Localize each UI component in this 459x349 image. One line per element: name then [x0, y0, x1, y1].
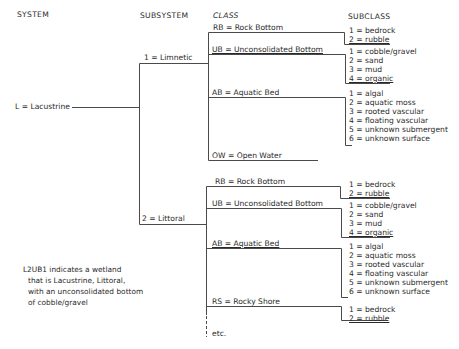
note-line: with an unconsolidated bottom — [23, 286, 143, 297]
more-classes-etc: etc. — [212, 329, 226, 338]
header-class: CLASS — [213, 11, 239, 20]
class-littoral-rs: RS = Rocky Shore — [212, 297, 280, 306]
class-littoral-ub: UB = Unconsolidated Bottom — [212, 199, 323, 208]
subclass-item: 6 = unknown surface — [349, 135, 448, 144]
subclass-item: 4 = organic — [349, 229, 417, 238]
subclass-list-limnetic-ub: 1 = cobble/gravel 2 = sand 3 = mud 4 = o… — [349, 48, 417, 84]
subclass-list-littoral-rb: 1 = bedrock 2 = rubble — [349, 181, 396, 199]
header-system: SYSTEM — [17, 10, 49, 19]
subclass-list-limnetic-rb: 1 = bedrock 2 = rubble — [349, 27, 396, 45]
subclass-item: 2 = rubble — [349, 190, 396, 199]
subclass-item: 6 = unknown surface — [349, 288, 448, 297]
example-note: L2UB1 indicates a wetland that is Lacust… — [23, 264, 143, 308]
subclass-list-limnetic-ab: 1 = algal 2 = aquatic moss 3 = rooted va… — [349, 90, 448, 143]
class-littoral-ab: AB = Aquatic Bed — [212, 239, 279, 248]
class-limnetic-ow: OW = Open Water — [212, 151, 282, 160]
subclass-list-littoral-rs: 1 = bedrock 2 = rubble — [349, 306, 396, 324]
subclass-list-littoral-ab: 1 = algal 2 = aquatic moss 3 = rooted va… — [349, 243, 448, 296]
header-subclass: SUBCLASS — [348, 12, 390, 21]
note-line: that is Lacustrine, Littoral, — [23, 275, 143, 286]
system-lacustrine: L = Lacustrine — [15, 102, 70, 111]
header-subsystem: SUBSYSTEM — [140, 11, 188, 20]
class-limnetic-rb: RB = Rock Bottom — [213, 23, 283, 32]
subclass-item: 4 = organic — [349, 75, 417, 84]
note-line: L2UB1 indicates a wetland — [23, 264, 143, 275]
subsystem-limnetic: 1 = Limnetic — [144, 53, 193, 62]
subclass-list-littoral-ub: 1 = cobble/gravel 2 = sand 3 = mud 4 = o… — [349, 202, 417, 238]
note-line: of cobble/gravel — [23, 297, 143, 308]
subclass-item: 2 = rubble — [349, 36, 396, 45]
class-limnetic-ub: UB = Unconsolidated Bottom — [212, 45, 323, 54]
subsystem-littoral: 2 = Littoral — [142, 214, 185, 223]
subclass-item: 2 = rubble — [349, 315, 396, 324]
class-limnetic-ab: AB = Aquatic Bed — [212, 88, 279, 97]
class-littoral-rb: RB = Rock Bottom — [215, 177, 285, 186]
